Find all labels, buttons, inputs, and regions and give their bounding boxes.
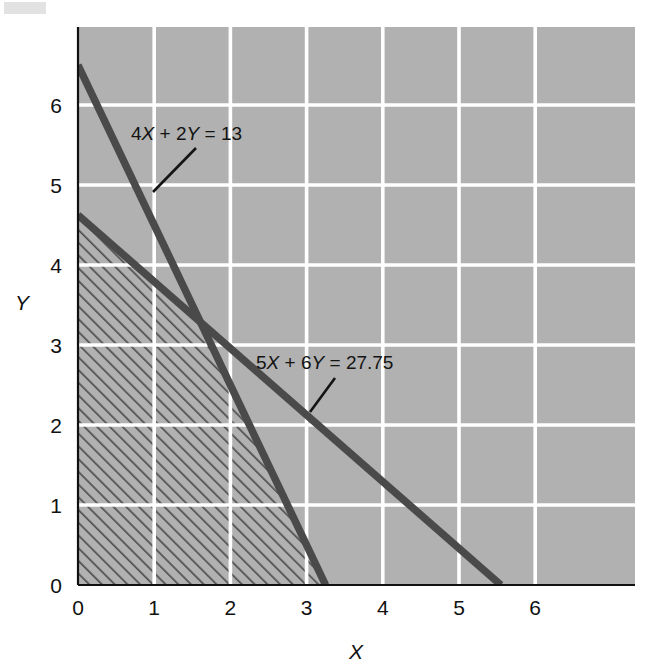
y-tick-label-3: 3 — [50, 334, 62, 357]
c1-coef-y: 2 — [176, 123, 187, 144]
x-tick-labels: 0 1 2 3 4 5 6 — [72, 596, 541, 619]
x-tick-label-5: 5 — [453, 596, 465, 619]
x-tick-label-3: 3 — [301, 596, 313, 619]
x-tick-label-2: 2 — [225, 596, 237, 619]
chart-figure: 0 1 2 3 4 5 6 0 1 2 3 4 5 6 X Y 4X + 2Y … — [0, 0, 653, 670]
y-tick-label-6: 6 — [50, 94, 62, 117]
y-tick-label-4: 4 — [50, 254, 62, 277]
x-tick-label-4: 4 — [377, 596, 389, 619]
x-tick-label-6: 6 — [529, 596, 541, 619]
x-axis-title: X — [348, 640, 364, 663]
y-tick-label-5: 5 — [50, 174, 62, 197]
c1-plus: + — [160, 123, 171, 144]
constraint-2-label: 5X + 6Y = 27.75 — [256, 352, 393, 373]
c2-plus: + — [285, 352, 296, 373]
y-tick-label-2: 2 — [50, 414, 62, 437]
c2-rhs: 27.75 — [346, 352, 394, 373]
linear-programming-chart: 0 1 2 3 4 5 6 0 1 2 3 4 5 6 X Y 4X + 2Y … — [0, 0, 653, 670]
y-axis-title: Y — [15, 291, 31, 314]
c1-equals: = — [204, 123, 215, 144]
y-tick-labels: 0 1 2 3 4 5 6 — [50, 94, 62, 597]
x-tick-label-1: 1 — [148, 596, 160, 619]
y-tick-label-1: 1 — [50, 494, 62, 517]
constraint-1-label: 4X + 2Y = 13 — [131, 123, 242, 144]
c2-coef-y: 6 — [301, 352, 312, 373]
y-tick-label-0: 0 — [50, 574, 62, 597]
c1-rhs: 13 — [221, 123, 242, 144]
c1-coef-x: 4 — [131, 123, 142, 144]
x-tick-label-0: 0 — [72, 596, 84, 619]
c2-coef-x: 5 — [256, 352, 267, 373]
scan-artifact — [4, 2, 46, 14]
c2-equals: = — [329, 352, 340, 373]
